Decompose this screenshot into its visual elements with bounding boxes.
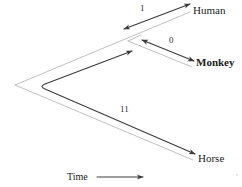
taxon-label-human: Human — [193, 5, 225, 16]
taxon-label-horse: Horse — [198, 153, 224, 164]
distance-label-human: 1 — [140, 4, 145, 13]
branch-root-to-horse — [15, 85, 193, 160]
distance-label-horse: 11 — [120, 105, 129, 114]
distance-label-monkey: 0 — [169, 36, 174, 45]
distance-arrow-monkey — [142, 40, 194, 61]
measured-path-group — [42, 51, 195, 154]
branch-primate-split — [128, 35, 141, 41]
distance-arrows — [124, 4, 194, 61]
branch-node-to-monkey — [128, 41, 192, 67]
time-axis-label: Time — [67, 172, 88, 182]
taxon-label-monkey: Monkey — [196, 57, 235, 68]
scan-speck — [236, 174, 238, 176]
measured-path-root-bracket — [42, 51, 195, 154]
